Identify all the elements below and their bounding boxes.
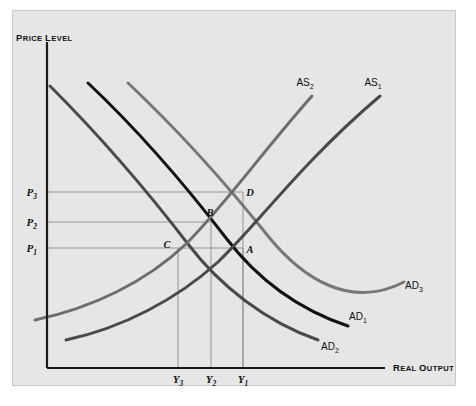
- tick-labels-group: P3P2P1Y3Y2Y1: [27, 186, 249, 388]
- curve-as1: [66, 96, 380, 340]
- output-tick-label-2: Y2: [206, 373, 217, 388]
- curve-ad2: [50, 86, 318, 340]
- point-label-a: A: [245, 244, 253, 255]
- curve-label-as1: AS1: [364, 77, 381, 90]
- ad-as-diagram: P3P2P1Y3Y2Y1 ABCD AD1AD2AD3AS1AS2 PRICE …: [0, 0, 476, 406]
- y-axis-title: PRICE LEVEL: [16, 32, 73, 43]
- curves-group: [35, 83, 404, 340]
- curve-label-ad3: AD3: [405, 280, 423, 293]
- guide-lines-group: [47, 192, 243, 368]
- price-tick-label-1: P1: [27, 242, 37, 257]
- x-axis-title: REAL OUTPUT: [393, 362, 454, 373]
- curve-ad3: [128, 83, 404, 293]
- curve-ad1: [88, 83, 348, 326]
- axis-titles-group: PRICE LEVEL REAL OUTPUT: [16, 32, 454, 373]
- curve-label-ad2: AD2: [321, 341, 339, 354]
- price-tick-label-2: P2: [27, 216, 38, 231]
- point-label-c: C: [163, 239, 171, 250]
- figure-root: P3P2P1Y3Y2Y1 ABCD AD1AD2AD3AS1AS2 PRICE …: [0, 0, 476, 406]
- curve-label-ad1: AD1: [349, 311, 367, 324]
- curve-label-as2: AS2: [296, 77, 313, 90]
- point-label-b: B: [205, 207, 213, 218]
- price-tick-label-3: P3: [27, 186, 38, 201]
- output-tick-label-3: Y3: [173, 373, 184, 388]
- output-tick-label-1: Y1: [238, 373, 248, 388]
- point-label-d: D: [245, 187, 254, 198]
